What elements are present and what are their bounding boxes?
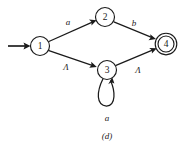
edge-1-to-3 [48,50,97,67]
state-node-1[interactable]: 1 [31,37,50,56]
edge-3-self-loop [98,77,114,106]
figure-container: 1 2 3 4 a b Λ Λ a (d) [0,0,187,148]
state-diagram: 1 2 3 4 a b Λ Λ a (d) [0,0,187,148]
edge-label-3-self-loop: a [105,113,110,123]
edge-label-1-to-2: a [66,17,71,27]
state-label-1: 1 [38,41,43,51]
state-label-2: 2 [103,12,108,22]
state-node-4-accepting[interactable]: 4 [155,33,177,55]
edge-label-3-to-4: Λ [134,65,141,75]
edge-3-to-4 [115,48,156,66]
state-node-2[interactable]: 2 [96,8,115,27]
edge-label-1-to-3: Λ [62,62,69,72]
start-arrow [8,43,31,50]
state-node-3[interactable]: 3 [98,61,117,80]
figure-caption: (d) [102,131,113,141]
edge-label-2-to-4: b [132,18,137,28]
state-label-3: 3 [105,65,110,75]
state-label-4: 4 [164,39,169,49]
edge-1-to-2 [48,20,96,42]
